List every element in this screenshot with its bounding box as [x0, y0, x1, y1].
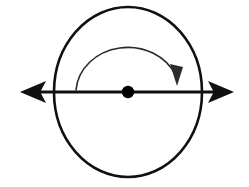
diagram-canvas	[0, 0, 249, 187]
rotating-sphere-diagram	[0, 0, 249, 187]
center-dot	[122, 86, 134, 98]
